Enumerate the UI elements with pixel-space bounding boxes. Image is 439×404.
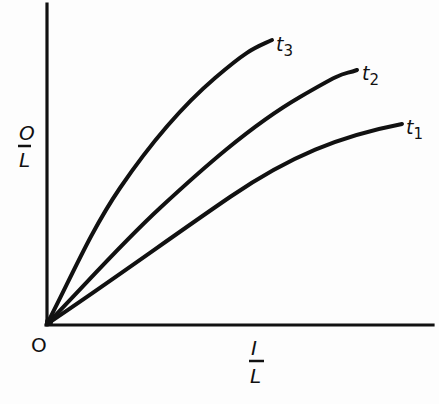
y-label-numerator: O <box>19 121 35 145</box>
curve-label-t1: t1 <box>406 116 423 143</box>
curve-t2 <box>47 70 357 324</box>
chart-canvas: t3 t2 t1 O O L I L <box>0 0 439 404</box>
curve-t1 <box>47 124 402 324</box>
curve-label-t2: t2 <box>362 62 379 89</box>
curve-label-t3: t3 <box>276 33 293 60</box>
origin-label: O <box>31 333 47 357</box>
curve-t3 <box>47 40 272 324</box>
x-label-denominator: L <box>250 364 261 388</box>
x-label-numerator: I <box>251 336 257 360</box>
y-label-denominator: L <box>19 148 30 172</box>
